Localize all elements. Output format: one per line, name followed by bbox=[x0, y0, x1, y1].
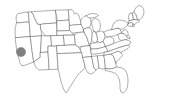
state-florida[interactable] bbox=[105, 67, 128, 93]
us-states-map[interactable] bbox=[0, 0, 173, 106]
state-colorado[interactable] bbox=[51, 35, 64, 46]
map-markers-group bbox=[16, 47, 25, 56]
us-map-figure bbox=[0, 0, 173, 106]
california-marker[interactable] bbox=[16, 47, 25, 56]
state-outlines-group bbox=[15, 6, 144, 94]
state-new-york[interactable] bbox=[112, 20, 129, 30]
state-kansas[interactable] bbox=[64, 35, 76, 45]
state-oregon[interactable] bbox=[15, 22, 30, 38]
state-michigan-upper[interactable] bbox=[87, 14, 99, 19]
state-wyoming[interactable] bbox=[41, 23, 58, 36]
state-arkansas[interactable] bbox=[81, 46, 92, 58]
state-texas[interactable] bbox=[57, 53, 85, 94]
state-michigan[interactable] bbox=[92, 19, 101, 33]
state-minnesota[interactable] bbox=[69, 10, 82, 26]
state-south-dakota[interactable] bbox=[57, 20, 70, 31]
state-washington[interactable] bbox=[16, 12, 29, 23]
state-north-dakota[interactable] bbox=[56, 10, 70, 21]
